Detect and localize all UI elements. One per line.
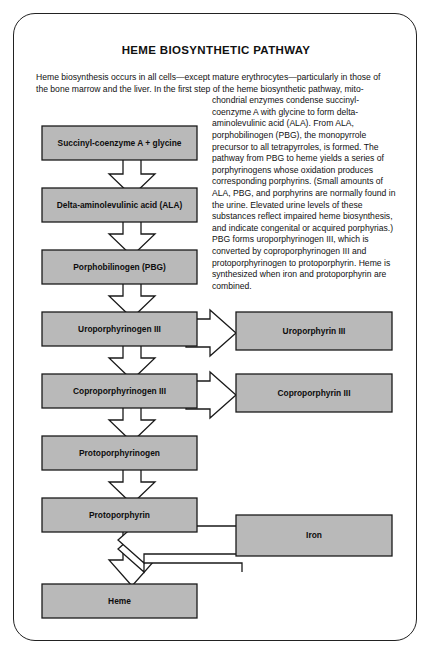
node-coproporphyrinogen-iii: Coproporphyrinogen III [42, 374, 197, 408]
node-protoporphyrinogen: Protoporphyrinogen [42, 436, 197, 470]
node-protoporphyrin: Protoporphyrin [42, 498, 197, 532]
node-label-ala: Delta-aminolevulinic acid (ALA) [57, 200, 183, 210]
node-label-pbg: Porphobilinogen (PBG) [73, 262, 166, 272]
node-label-protoporphyrinogen: Protoporphyrinogen [79, 448, 160, 458]
node-ala: Delta-aminolevulinic acid (ALA) [42, 188, 197, 222]
node-label-coproporphyrin-iii: Coproporphyrin III [277, 388, 350, 398]
node-label-uroporphyrin-iii: Uroporphyrin III [283, 326, 346, 336]
node-label-uroporphyrinogen-iii: Uroporphyrinogen III [78, 324, 161, 334]
node-label-heme: Heme [108, 596, 131, 606]
node-uroporphyrin-iii: Uroporphyrin III [236, 312, 392, 350]
node-label-coproporphyrinogen-iii: Coproporphyrinogen III [73, 386, 166, 396]
node-label-protoporphyrin: Protoporphyrin [89, 510, 150, 520]
diagram-page: HEME BIOSYNTHETIC PATHWAY Heme biosynthe… [0, 0, 434, 651]
node-coproporphyrin-iii: Coproporphyrin III [236, 374, 392, 412]
node-pbg: Porphobilinogen (PBG) [42, 250, 197, 284]
node-heme: Heme [42, 584, 197, 618]
node-label-iron: Iron [306, 530, 322, 540]
node-uroporphyrinogen-iii: Uroporphyrinogen III [42, 312, 197, 346]
node-succinyl: Succinyl-coenzyme A + glycine [42, 126, 197, 160]
node-label-succinyl: Succinyl-coenzyme A + glycine [58, 138, 182, 148]
node-iron: Iron [236, 515, 392, 556]
pathway-flowchart: Succinyl-coenzyme A + glycine Delta-amin… [14, 14, 418, 642]
diagram-card: HEME BIOSYNTHETIC PATHWAY Heme biosynthe… [13, 13, 417, 641]
